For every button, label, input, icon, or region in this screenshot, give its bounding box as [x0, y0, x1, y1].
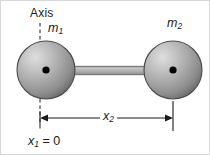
axis-label: Axis	[30, 7, 53, 19]
sphere-mass-1	[17, 41, 75, 99]
connecting-rod	[67, 66, 152, 75]
mass-2-subscript: 2	[177, 21, 182, 31]
center-dot-mass-2	[169, 66, 176, 73]
mass-1-subscript: 1	[58, 26, 63, 36]
center-dot-mass-1	[42, 66, 49, 73]
arrowhead-right	[165, 115, 173, 122]
origin-equals-zero: = 0	[39, 134, 60, 148]
origin-x1-label: x1 = 0	[28, 135, 60, 148]
mass-2-label: m2	[167, 17, 182, 30]
arrowhead-left	[40, 115, 48, 122]
distance-x2-label: x2	[100, 110, 117, 123]
distance-subscript: 2	[109, 114, 114, 124]
mass-2-symbol: m	[167, 16, 177, 30]
physics-diagram-figure: Axis m1 m2 x2 x1 = 0	[0, 0, 210, 155]
mass-1-symbol: m	[48, 21, 58, 35]
origin-subscript: 1	[34, 139, 39, 149]
mass-1-label: m1	[48, 22, 63, 35]
sphere-mass-2	[144, 41, 202, 99]
